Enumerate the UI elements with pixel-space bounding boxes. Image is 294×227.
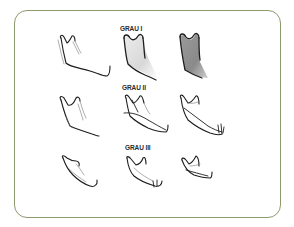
mandible-sketch-r3-c3 [182,156,212,178]
mandible-sketch-r1-c1 [58,35,110,76]
mandible-sketch-r3-c2 [127,157,162,187]
mandible-sketch-r2-c1 [60,97,99,136]
mandible-sketch-r2-c3 [180,95,224,134]
mandible-sketch-r1-c2 [124,35,158,80]
sketch-canvas [0,0,294,227]
mandible-sketch-r1-c3 [180,34,208,78]
mandible-sketch-r3-c1 [62,156,97,187]
mandible-sketch-r2-c2 [124,95,168,132]
